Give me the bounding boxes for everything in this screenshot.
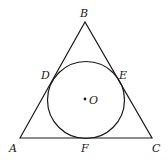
- label-e: E: [118, 69, 127, 82]
- triangle-abc: [20, 22, 152, 138]
- inscribed-circle: [48, 62, 125, 139]
- label-c: C: [152, 142, 161, 155]
- incircle-diagram: A B C D E F O: [0, 0, 168, 161]
- label-d: D: [40, 69, 50, 82]
- label-b: B: [79, 7, 88, 20]
- label-a: A: [8, 142, 17, 155]
- label-o: O: [89, 94, 98, 107]
- center-point-o: [84, 98, 87, 101]
- label-f: F: [80, 142, 89, 155]
